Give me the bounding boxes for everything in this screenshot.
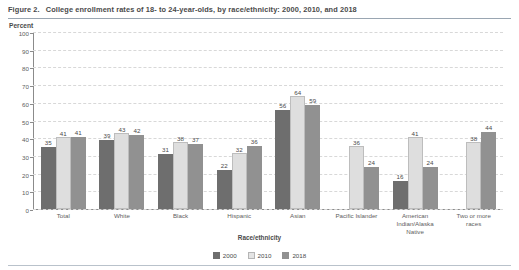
bar-slot: 24 [423,33,438,209]
x-axis-category-label-line: Indian/Alaska [386,220,445,228]
bar-value-label: 22 [221,162,228,169]
y-axis-tick-mark [30,104,33,105]
y-axis-tick-label: 20 [22,171,29,178]
bar[interactable]: 59 [305,105,320,209]
legend-label: 2000 [223,252,237,259]
bar[interactable]: 35 [41,147,56,209]
x-axis-category-label-line: Total [34,212,93,220]
x-axis-category-label-line: Two or more [444,212,503,220]
bar-group: 566459 [269,33,328,209]
bar[interactable]: 32 [232,153,247,209]
bar-value-label: 41 [412,130,419,137]
bottom-divider [8,265,511,266]
bar-slot: 37 [188,33,203,209]
bar[interactable]: 31 [158,154,173,209]
y-axis-tick-mark [30,210,33,211]
bar-groups: 3541413943423138372232365664593624164124… [34,33,503,209]
bar-slot: 39 [99,33,114,209]
x-axis-title: Race/ethnicity [0,234,519,241]
bar-value-label: 24 [368,159,375,166]
bar[interactable]: 41 [56,137,71,209]
bar-value-label: 35 [45,139,52,146]
x-axis-category-label: Asian [269,212,328,236]
y-axis-tick-label: 90 [22,47,29,54]
x-axis-category-label-line: Black [151,212,210,220]
bar-value-label: 36 [251,138,258,145]
bar[interactable]: 36 [349,146,364,209]
bar[interactable]: 42 [129,135,144,209]
bar-slot: 42 [129,33,144,209]
y-axis-tick-label: 70 [22,83,29,90]
y-axis-tick-mark [30,33,33,34]
bar[interactable]: 36 [247,146,262,209]
bar-slot [451,33,466,209]
bar[interactable]: 37 [188,144,203,209]
figure-number: Figure 2. [8,5,40,14]
x-axis-category-label: White [93,212,152,236]
y-axis-tick-label: 60 [22,100,29,107]
title-divider [8,18,511,19]
bar-value-label: 24 [427,159,434,166]
bar-slot: 32 [232,33,247,209]
x-axis-category-label: AmericanIndian/AlaskaNative [386,212,445,236]
bar-group: 223236 [210,33,269,209]
bar-value-label: 38 [177,135,184,142]
bar-slot: 24 [364,33,379,209]
legend-swatch-icon [282,252,289,259]
bar[interactable]: 38 [466,142,481,209]
bar-value-label: 43 [118,126,125,133]
legend-label: 2018 [292,252,306,259]
x-axis-category-label: Two or moreraces [444,212,503,236]
bar-value-label: 59 [309,97,316,104]
legend-item[interactable]: 2000 [213,252,237,259]
y-axis-tick-mark [30,192,33,193]
bar[interactable]: 56 [275,110,290,209]
bar-slot: 36 [349,33,364,209]
bar[interactable]: 39 [99,140,114,209]
legend-item[interactable]: 2018 [282,252,306,259]
y-axis-tick-mark [30,51,33,52]
bar-value-label: 56 [279,102,286,109]
bar-value-label: 32 [236,146,243,153]
y-axis-unit-label: Percent [9,22,33,29]
gridline: 0 [33,209,503,210]
chart-legend: 200020102018 [0,252,519,259]
bar-value-label: 31 [162,146,169,153]
bar-value-label: 37 [192,136,199,143]
bar-slot: 43 [114,33,129,209]
x-axis-category-label: Pacific Islander [327,212,386,236]
bar[interactable]: 24 [364,167,379,209]
bar[interactable]: 16 [393,181,408,209]
bar-slot [334,33,349,209]
bar-slot: 16 [393,33,408,209]
bar[interactable]: 38 [173,142,188,209]
bar[interactable]: 64 [290,96,305,209]
bar[interactable]: 41 [71,137,86,209]
bar-value-label: 44 [485,124,492,131]
bar-group: 313837 [151,33,210,209]
x-axis-category-label-line: American [386,212,445,220]
bar[interactable]: 24 [423,167,438,209]
legend-item[interactable]: 2010 [248,252,272,259]
x-axis-category-label-line: White [93,212,152,220]
y-axis-tick-mark [30,139,33,140]
bar-slot: 44 [481,33,496,209]
bar-slot: 31 [158,33,173,209]
y-axis-tick-label: 40 [22,136,29,143]
bar[interactable]: 44 [481,132,496,209]
bar-slot: 36 [247,33,262,209]
bar-value-label: 38 [470,135,477,142]
bar-value-label: 36 [353,139,360,146]
y-axis-tick-mark [30,175,33,176]
x-axis-category-labels: TotalWhiteBlackHispanicAsianPacific Isla… [34,212,503,236]
bar[interactable]: 43 [114,133,129,209]
y-axis-tick-mark [30,86,33,87]
bar-value-label: 39 [103,132,110,139]
bar-slot: 38 [466,33,481,209]
y-axis-tick-mark [30,122,33,123]
bar[interactable]: 22 [217,170,232,209]
bar-slot: 41 [408,33,423,209]
bar[interactable]: 41 [408,137,423,209]
x-axis-category-label: Black [151,212,210,236]
legend-swatch-icon [213,252,220,259]
